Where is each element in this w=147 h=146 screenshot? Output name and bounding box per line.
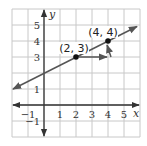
y-tick-label: −1	[25, 116, 40, 127]
point-label: (4, 4)	[88, 26, 118, 39]
point-marker	[73, 54, 79, 60]
points: (2, 3)(4, 4)	[59, 26, 118, 60]
y-tick-label: 4	[34, 36, 40, 47]
y-tick-label: 3	[34, 52, 40, 63]
x-tick-label: 2	[73, 109, 79, 120]
point-marker	[105, 38, 111, 44]
x-axis-label: x	[133, 107, 140, 120]
y-tick-label: 5	[34, 20, 40, 31]
y-axis-label: y	[48, 8, 56, 21]
coordinate-plane: xy −1123455431−1 (2, 3)(4, 4)	[0, 0, 147, 146]
x-tick-label: 3	[89, 109, 95, 120]
x-tick-label: 4	[105, 109, 111, 120]
y-tick-label: 1	[34, 84, 40, 95]
point-label: (2, 3)	[59, 42, 89, 55]
x-tick-label: 5	[121, 109, 127, 120]
x-tick-label: 1	[57, 109, 63, 120]
